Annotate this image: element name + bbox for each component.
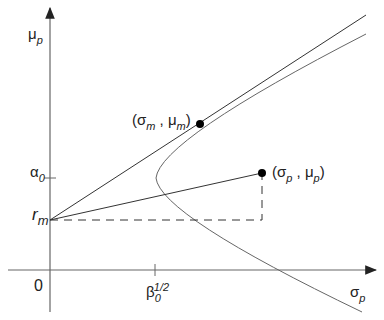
- tangency-open: (σ: [132, 111, 146, 128]
- alpha-symbol: α: [30, 163, 39, 180]
- tangency-sub1: m: [146, 120, 155, 132]
- alpha-subscript: 0: [39, 172, 45, 184]
- portfolio-label: (σp , μp): [272, 164, 325, 179]
- diagram-canvas: [0, 0, 384, 320]
- beta0-label: β01/2: [146, 284, 169, 299]
- tangency-close: ): [186, 111, 191, 128]
- tangency-point: [196, 120, 204, 128]
- x-symbol: σ: [350, 283, 359, 300]
- portfolio-close: ): [320, 163, 325, 180]
- beta-superscript: 1/2: [154, 281, 169, 293]
- tangency-sub2: m: [177, 120, 186, 132]
- tangency-label: (σm , μm): [132, 112, 191, 127]
- portfolio-sub1: p: [286, 172, 292, 184]
- rm-label: rm: [32, 206, 49, 223]
- tangency-mid: , μ: [155, 111, 176, 128]
- origin-label: 0: [34, 278, 43, 294]
- portfolio-point: [258, 169, 266, 177]
- x-axis-label: σp: [350, 284, 365, 299]
- beta-subscript: 0: [155, 292, 161, 304]
- r-subscript: m: [38, 213, 49, 228]
- x-subscript: p: [359, 292, 365, 304]
- y-subscript: p: [37, 34, 43, 46]
- portfolio-sub2: p: [314, 172, 320, 184]
- y-axis-label: μp: [28, 26, 43, 41]
- y-symbol: μ: [28, 25, 37, 42]
- alpha0-label: α0: [30, 164, 45, 179]
- capital-market-line: [50, 15, 366, 220]
- portfolio-mid: , μ: [292, 163, 313, 180]
- portfolio-open: (σ: [272, 163, 286, 180]
- r-symbol: r: [32, 205, 38, 224]
